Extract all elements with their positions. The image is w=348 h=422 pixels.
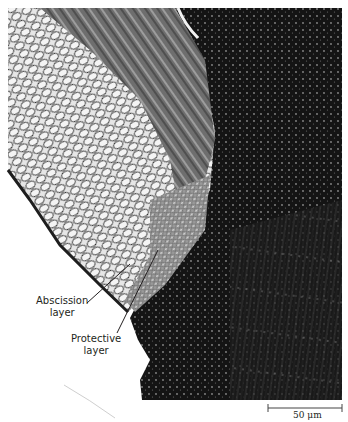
- micrograph-image: [0, 0, 348, 422]
- abscission-label-line1: Abscission: [36, 295, 88, 307]
- abscission-label-line2: layer: [36, 307, 88, 319]
- scale-bar-label: 50 μm: [293, 410, 322, 420]
- protective-label-line2: layer: [71, 345, 121, 357]
- abscission-layer-label: Abscission layer: [36, 295, 88, 319]
- protective-label-line1: Protective: [71, 333, 121, 345]
- protective-layer-label: Protective layer: [71, 333, 121, 357]
